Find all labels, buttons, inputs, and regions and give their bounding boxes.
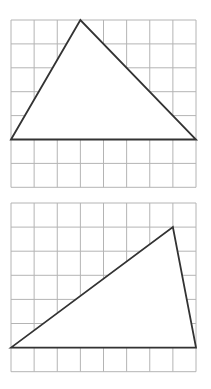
top-grid-figure	[11, 20, 196, 187]
bottom-grid-figure	[11, 203, 196, 372]
diagram-canvas	[0, 0, 211, 389]
